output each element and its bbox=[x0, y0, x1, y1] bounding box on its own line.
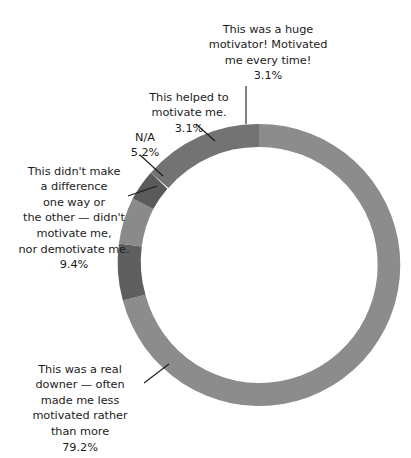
slice-label-no-difference: This didn't make a difference one way or… bbox=[4, 148, 144, 288]
slice-label-huge-motivator-text: This was a huge motivator! Motivated me … bbox=[209, 23, 328, 67]
slice-label-real-downer-text: This was a real downer — often made me l… bbox=[32, 363, 127, 438]
slice-label-no-difference-percent: 9.4% bbox=[4, 257, 144, 273]
slice-label-no-difference-text: This didn't make a difference one way or… bbox=[18, 165, 129, 256]
slice-label-real-downer-percent: 79.2% bbox=[12, 440, 148, 456]
slice-label-real-downer: This was a real downer — often made me l… bbox=[12, 346, 148, 458]
donut-chart: This was a huge motivator! Motivated me … bbox=[0, 0, 411, 458]
slice-label-na-text: N/A bbox=[135, 131, 155, 144]
